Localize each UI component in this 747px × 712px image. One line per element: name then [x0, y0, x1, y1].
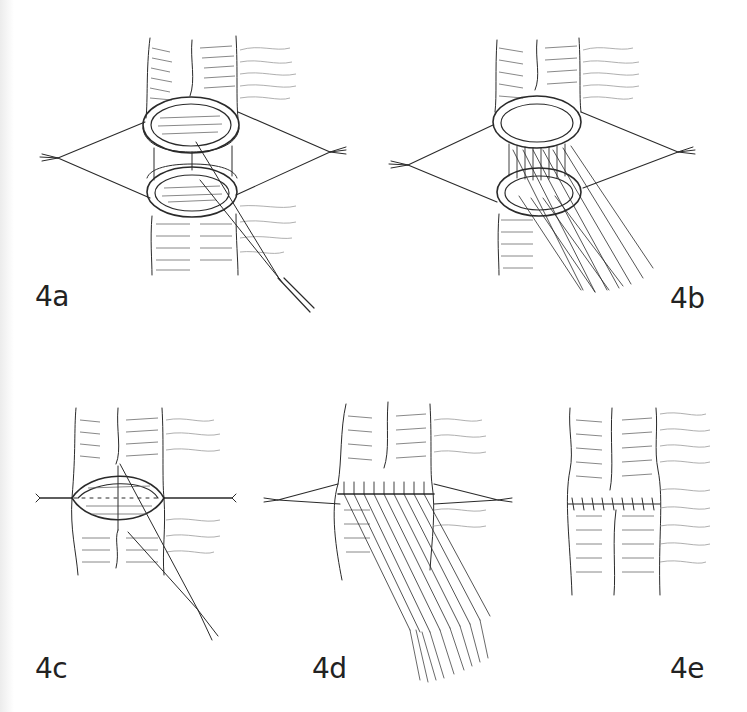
panel-label-4d: 4d	[312, 652, 347, 685]
panel-label-4e: 4e	[670, 652, 704, 685]
panel-label-4b: 4b	[670, 282, 705, 315]
illustration-4d	[250, 380, 520, 712]
panel-4d: 4d	[250, 380, 520, 712]
illustration-4e	[530, 390, 747, 712]
panel-4e: 4e	[530, 390, 747, 712]
panel-4a: 4a	[0, 0, 373, 330]
panel-4b: 4b	[373, 0, 747, 340]
panel-4c: 4c	[0, 380, 260, 712]
panel-label-4a: 4a	[35, 280, 69, 313]
panel-label-4c: 4c	[35, 652, 67, 685]
